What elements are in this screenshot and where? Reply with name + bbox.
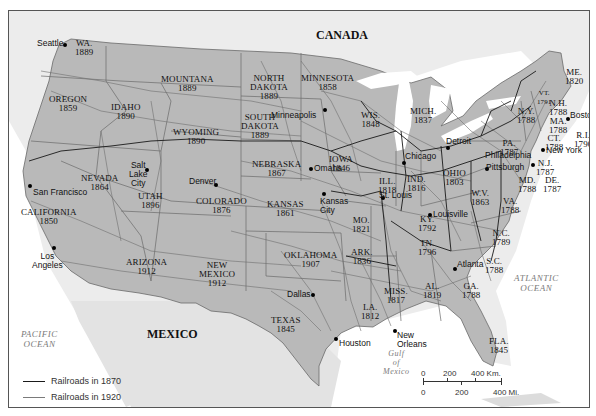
scale-tick — [461, 381, 462, 385]
canada-label: CANADA — [316, 28, 368, 43]
state-label-wisconsin: WIS.1848 — [361, 111, 380, 129]
state-label-michigan: MICH.1837 — [410, 107, 436, 125]
city-label-chicago: Chicago — [405, 152, 436, 161]
state-label-utah: UTAH1896 — [138, 192, 163, 210]
city-label-salt-lake-city: Salt Lake City — [129, 161, 147, 188]
state-label-colorado: COLORADO1876 — [196, 197, 247, 215]
state-label-mississippi: MISS.1817 — [384, 287, 408, 305]
city-marker-new-york — [541, 148, 545, 152]
city-label-atlanta: Atlanta — [457, 260, 483, 269]
city-label-kansas-city: Kansas City — [320, 197, 348, 215]
state-label-california: CALIFORNIA1850 — [21, 208, 77, 226]
city-marker-chicago — [402, 161, 406, 165]
state-label-arizona: ARIZONA1912 — [126, 258, 167, 276]
state-label-tennessee: TN.1796 — [418, 239, 436, 257]
state-label-arkansas: ARK.1836 — [351, 248, 373, 266]
legend-item-1920: Railroads in 1920 — [23, 389, 121, 405]
scale-bar: 0 200 400 Km. 0 200 400 Mi. — [421, 369, 561, 405]
state-label-washington: WA.1889 — [75, 39, 93, 57]
city-label-seattle: Seattle — [37, 39, 63, 48]
city-label-omaha: Omaha — [314, 164, 342, 173]
scale-tick — [501, 378, 502, 385]
state-label-minnesota: MINNESOTA1858 — [301, 74, 354, 92]
city-label-boston: Boston — [570, 111, 590, 120]
map-frame: CANADA MEXICO PACIFIC OCEAN ATLANTIC OCE… — [8, 10, 590, 408]
state-label-kansas: KANSAS1861 — [267, 200, 304, 218]
city-marker-seattle — [63, 43, 67, 47]
city-label-denver: Denver — [189, 177, 216, 186]
state-label-west-virginia: W.V.1863 — [471, 189, 489, 207]
state-label-delaware: DE.1787 — [543, 176, 561, 194]
city-marker-omaha — [309, 167, 313, 171]
state-label-oregon: OREGON1859 — [49, 95, 87, 113]
state-label-virginia: VA.1788 — [501, 197, 519, 215]
state-label-wyoming: WYOMING1890 — [173, 128, 219, 146]
state-label-nebraska: NEBRASKA1867 — [252, 160, 301, 178]
city-marker-minneapolis — [323, 108, 327, 112]
legend-item-1870: Railroads in 1870 — [23, 373, 121, 389]
city-marker-louisville — [428, 213, 432, 217]
state-label-new-mexico: NEW MEXICO1912 — [199, 261, 235, 288]
map-legend: Railroads in 1870 Railroads in 1920 — [23, 373, 121, 405]
city-label-houston: Houston — [339, 339, 371, 348]
state-label-new-york: N.Y.1788 — [517, 107, 535, 125]
city-label-st-louis: St. Louis — [379, 191, 412, 200]
state-label-maine: ME.1820 — [565, 68, 583, 86]
atlantic-ocean-label: ATLANTIC OCEAN — [514, 273, 559, 293]
state-label-oklahoma: OKLAHOMA1907 — [284, 251, 337, 269]
scale-tick — [447, 378, 448, 382]
state-label-montana: MOUNTANA1889 — [161, 75, 214, 93]
city-label-dallas: Dallas — [287, 290, 311, 299]
city-marker-dallas — [311, 293, 315, 297]
scale-tick — [475, 378, 476, 382]
legend-line-1920-icon — [23, 397, 45, 398]
state-label-florida: FLA.1845 — [489, 337, 509, 355]
state-label-north-carolina: N.C.1789 — [492, 229, 510, 247]
state-label-south-carolina: S.C.1788 — [485, 257, 503, 275]
city-marker-detroit — [446, 146, 450, 150]
state-label-ohio: OHIO1803 — [443, 169, 466, 187]
city-label-new-orleans: New Orleans — [397, 331, 427, 349]
city-label-philadelphia: Philadelphia — [485, 151, 531, 160]
scale-bar-line — [423, 381, 501, 382]
legend-line-1870-icon — [23, 381, 45, 382]
city-label-san-francisco: San Francisco — [33, 188, 87, 197]
mexico-label: MEXICO — [147, 327, 198, 342]
state-label-alabama: AL.1819 — [423, 282, 441, 300]
state-label-louisiana: LA.1812 — [361, 303, 379, 321]
pacific-ocean-label: PACIFIC OCEAN — [21, 329, 58, 349]
state-label-north-dakota: NORTH DAKOTA1889 — [250, 74, 288, 101]
scale-tick — [423, 378, 424, 385]
state-label-maryland: MD.1788 — [518, 176, 536, 194]
state-label-missouri: MO.1821 — [352, 216, 370, 234]
city-label-new-york: New York — [546, 146, 582, 155]
city-marker-los-angeles — [52, 246, 56, 250]
city-label-pittsburgh: Pittsburgh — [486, 163, 524, 172]
state-label-idaho: IDAHO1890 — [111, 103, 141, 121]
city-label-louisville: Louisville — [433, 210, 468, 219]
city-label-detroit: Detroit — [446, 137, 471, 146]
city-marker-houston — [334, 337, 338, 341]
city-label-minneapolis: Minneapolis — [271, 111, 316, 120]
state-label-texas: TEXAS1845 — [271, 316, 301, 334]
state-label-georgia: GA.1788 — [462, 282, 480, 300]
city-marker-philadelphia — [531, 163, 535, 167]
city-label-los-angeles: Los Angeles — [32, 252, 63, 270]
state-label-new-hampshire: N.H.1788 — [549, 99, 567, 117]
city-marker-san-francisco — [28, 184, 32, 188]
gulf-of-mexico-label: Gulf of Mexico — [383, 349, 410, 376]
